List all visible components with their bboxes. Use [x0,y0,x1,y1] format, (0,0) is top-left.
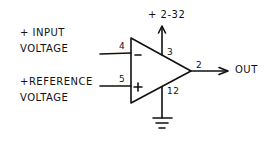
reference-voltage-label-line2: VOLTAGE [20,92,68,103]
pin-5-label: 5 [119,74,125,84]
op-amp-triangle [131,38,191,103]
reference-voltage-label-line1: +REFERENCE [20,76,93,87]
inverting-input-wire [100,53,131,54]
supply-voltage-label: + 2-32 [148,9,185,20]
op-amp-diagram: + INPUT VOLTAGE +REFERENCE VOLTAGE 4 5 3… [0,0,277,148]
pin-3-label: 3 [167,47,173,57]
pin-2-label: 2 [196,60,202,70]
pin-12-label: 12 [167,86,179,96]
input-voltage-label-line2: VOLTAGE [20,43,68,54]
input-voltage-label-line1: + INPUT [20,27,65,38]
pin-4-label: 4 [119,41,125,51]
output-label: OUT [235,64,258,75]
